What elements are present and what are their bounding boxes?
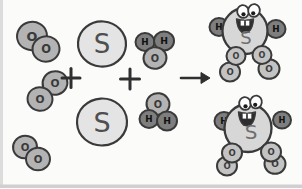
atom-label: H xyxy=(272,24,279,34)
sulfur-label: S xyxy=(245,120,258,144)
atom-label: O xyxy=(34,154,43,165)
atom-label: O xyxy=(35,93,44,106)
hydrogen-atom: H xyxy=(267,20,286,38)
water-molecule-1: HHO xyxy=(136,32,175,71)
plus-operator xyxy=(121,69,140,89)
reaction-svg: OOOOOOSSHHOOHHHHOOOOSHHOOOOS xyxy=(0,0,302,188)
googly-eye-icon xyxy=(249,95,262,109)
reaction-arrow xyxy=(181,73,210,84)
oxygen-atom: O xyxy=(227,47,246,65)
oxygen-atom: O xyxy=(261,143,281,162)
atom-label: H xyxy=(141,37,148,47)
oxygen-atom: O xyxy=(26,148,50,171)
atom-label: O xyxy=(233,52,240,61)
oxygen-molecule-2: OO xyxy=(26,68,71,113)
sulfuric-acid-molecule-2: HHOOOOS xyxy=(215,95,292,176)
scan-edge-bottom xyxy=(0,185,302,189)
atom-label: O xyxy=(265,64,273,74)
sulfur-label: S xyxy=(240,27,251,48)
chemistry-cartoon-diagram: OOOOOOSSHHOOHHHHOOOOSHHOOOOS xyxy=(0,0,302,188)
atom-label: O xyxy=(228,148,235,158)
oxygen-molecule-1: OO xyxy=(14,19,61,64)
atom-label: O xyxy=(41,42,51,56)
hydrogen-atom: H xyxy=(157,112,177,131)
atom-label: O xyxy=(50,77,59,90)
atom-label: H xyxy=(163,115,171,126)
atom-label: O xyxy=(259,51,266,60)
hydrogen-atom: H xyxy=(140,110,159,128)
sulfur-atom-1: S xyxy=(76,20,127,68)
atom-label: O xyxy=(151,53,159,64)
scan-edge-left xyxy=(0,0,3,188)
atom-label: H xyxy=(279,115,286,125)
oxygen-atom: O xyxy=(253,46,272,64)
oxygen-molecule-3: OO xyxy=(11,133,50,170)
sulfur-atom: S xyxy=(76,97,128,147)
hydrogen-atom: H xyxy=(273,112,291,129)
atom-label: O xyxy=(154,99,162,110)
atom-label: O xyxy=(226,67,233,77)
googly-eye-icon xyxy=(247,3,260,17)
atom-label: O xyxy=(267,147,274,157)
atom-label: S xyxy=(94,29,111,59)
sulfuric-acid-molecule-1: HHOOOOS xyxy=(210,3,286,81)
water-molecule-2: OHH xyxy=(140,92,178,131)
atom-label: H xyxy=(145,114,152,124)
atom-label: S xyxy=(93,107,110,138)
sulfur-atom-2: S xyxy=(76,97,128,147)
sulfur-atom: S xyxy=(76,20,127,68)
atom-label: H xyxy=(160,35,168,46)
oxygen-atom: O xyxy=(222,144,242,163)
